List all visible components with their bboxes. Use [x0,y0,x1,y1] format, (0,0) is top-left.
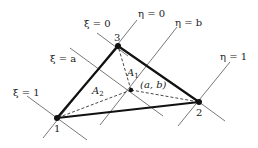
area-a2-label: A2 [91,85,104,98]
node-3-dot [115,43,121,49]
node-1-label: 1 [54,123,60,134]
xi-1-label: ξ = 1 [13,87,40,98]
node-1-dot [54,115,60,121]
eta-1-lower-line [199,102,225,121]
eta-b-label: η = b [175,17,202,28]
triangle-coordinate-diagram: 1 2 3 (a, b) A1 A2 ξ = 0 ξ = a ξ = 1 η =… [0,0,258,148]
eta-0-label: η = 0 [138,8,165,19]
triangle-element [57,46,199,118]
xi-a-label: ξ = a [50,53,76,64]
node-3-label: 3 [114,32,120,43]
xi-0-label: ξ = 0 [84,18,111,29]
node-2-label: 2 [196,107,202,118]
eta-1-label: η = 1 [220,51,247,62]
interior-point-label: (a, b) [140,79,167,90]
interior-point-dot [129,88,133,92]
dashed-lines [57,46,199,118]
node-2-dot [196,99,202,105]
